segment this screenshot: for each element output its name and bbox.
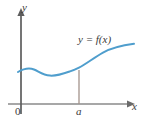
origin-label: 0 (15, 106, 21, 117)
function-equation-label: y = f(x) (78, 34, 111, 45)
function-curve (18, 44, 134, 76)
y-axis-label: y (22, 2, 27, 13)
graph-canvas (0, 0, 144, 124)
figure-container: y x 0 a y = f(x) (0, 0, 144, 124)
x-axis-label: x (132, 101, 137, 112)
x-value-a-label: a (76, 106, 82, 117)
